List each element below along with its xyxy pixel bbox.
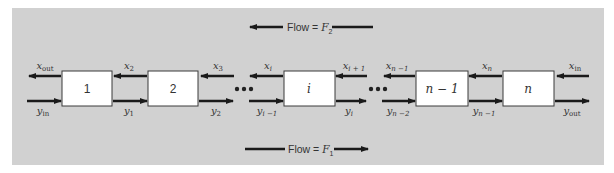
y-label: yn −2 [386,105,410,118]
stage-n-minus-1: n − 1 [416,71,468,106]
y-label: yin [36,105,50,118]
y-label: y2 [210,105,221,118]
bottom-flow-label: Flow = F1 [288,143,333,157]
stage-label: i [307,82,311,96]
x-label: xi [264,60,272,73]
stage-label: 1 [84,82,91,96]
x-label: xn −1 [386,60,409,73]
x-label: xin [569,60,582,73]
y-label: yi −1 [256,105,277,118]
stage-1: 1 [62,71,112,106]
stage-label: n − 1 [425,82,458,96]
x-label: x2 [124,60,134,73]
stage-label: 2 [170,82,177,96]
x-label: x3 [213,60,223,73]
bottom-flow-indicator: Flow = F1 [245,143,368,157]
top-flow-label: Flow = F2 [287,21,332,35]
stage-2: 2 [148,71,198,106]
stage-i: i [284,71,335,106]
ellipsis-2 [369,87,387,91]
x-label: xi + 1 [343,60,366,73]
x-label: xn [482,60,493,73]
stage-diagram: Flow = F2 Flow = F1 1 2 i n − 1 n xou [0,0,614,173]
stage-label: n [524,82,532,96]
y-label: yn −1 [472,105,496,118]
x-label: xout [36,60,53,73]
top-flow-indicator: Flow = F2 [250,21,373,35]
y-label: y1 [123,105,134,118]
ellipsis-1 [235,87,253,91]
stage-n: n [503,71,554,106]
y-label: yi [344,105,353,118]
y-label: yout [562,105,580,118]
